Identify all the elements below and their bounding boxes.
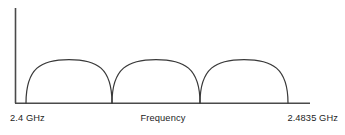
x-axis-max-label: 2.4835 GHz [287, 113, 338, 123]
x-axis-title: Frequency [141, 113, 186, 123]
spectrum-diagram: 2.4 GHz Frequency 2.4835 GHz [0, 0, 345, 135]
x-axis-min-label: 2.4 GHz [10, 113, 45, 123]
